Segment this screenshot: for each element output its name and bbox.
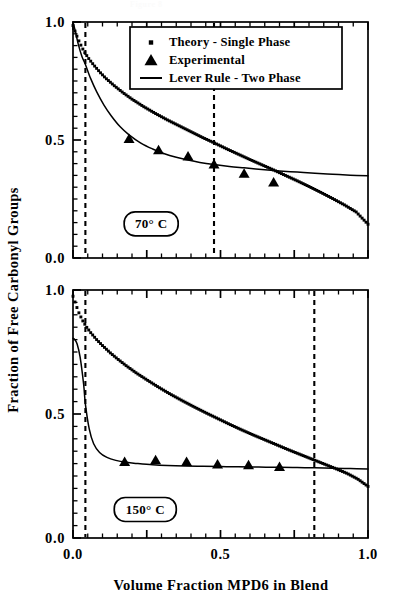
theory-marker <box>367 223 370 226</box>
experimental-marker <box>268 177 279 187</box>
experimental-marker <box>239 168 250 178</box>
x-axis-title: Volume Fraction MPD6 in Blend <box>114 577 329 593</box>
panel-bottom: 1.00.50.00.00.51.0150° C <box>45 282 378 562</box>
x-tick-label: 0.0 <box>63 546 83 562</box>
experimental-marker <box>181 456 192 466</box>
theory-marker <box>87 57 90 60</box>
panel-label-text: 70° C <box>135 216 167 231</box>
theory-marker <box>74 301 77 304</box>
y-tick-label: 0.5 <box>45 132 65 148</box>
x-tick-label: 0.5 <box>211 546 231 562</box>
theory-marker <box>81 48 84 51</box>
theory-marker <box>89 60 92 63</box>
experimental-marker <box>243 460 254 470</box>
theory-marker <box>79 316 82 319</box>
y-tick-label: 0.0 <box>45 530 65 546</box>
clipped-caption: Figure 8 <box>130 0 270 9</box>
theory-marker <box>79 44 82 47</box>
x-axis-title-text: Volume Fraction MPD6 in Blend <box>114 577 329 593</box>
theory-marker <box>74 30 77 33</box>
theory-marker <box>83 323 86 326</box>
theory-marker <box>85 54 88 57</box>
legend-marker-theory-icon <box>149 40 153 44</box>
theory-marker <box>87 329 90 332</box>
experimental-marker <box>183 151 194 161</box>
legend-label: Experimental <box>169 53 245 67</box>
theory-marker <box>85 326 88 329</box>
theory-marker <box>77 311 80 314</box>
two-panel-plot: Fraction of Free Carbonyl Groups Volume … <box>0 0 394 597</box>
y-axis-title: Fraction of Free Carbonyl Groups <box>5 187 21 413</box>
theory-marker <box>75 306 78 309</box>
experimental-marker <box>212 459 223 469</box>
theory-marker <box>75 35 78 38</box>
y-tick-label: 1.0 <box>45 282 65 298</box>
legend: Theory - Single PhaseExperimentalLever R… <box>130 27 342 89</box>
y-tick-label: 1.0 <box>45 14 65 30</box>
legend-label: Lever Rule - Two Phase <box>169 71 301 85</box>
theory-marker <box>367 485 370 488</box>
theory-marker <box>77 39 80 42</box>
theory-marker <box>81 319 84 322</box>
theory-marker <box>72 295 75 298</box>
y-tick-label: 0.0 <box>45 250 65 266</box>
y-axis-title-text: Fraction of Free Carbonyl Groups <box>5 187 21 413</box>
figure-container: Figure 8 Fraction of Free Carbonyl Group… <box>0 0 394 597</box>
experimental-marker <box>274 461 285 471</box>
theory-marker <box>72 24 75 27</box>
x-tick-label: 1.0 <box>358 546 378 562</box>
experimental-marker <box>150 455 161 465</box>
theory-marker <box>83 51 86 54</box>
legend-label: Theory - Single Phase <box>169 35 291 49</box>
y-tick-label: 0.5 <box>45 406 65 422</box>
panel-label-text: 150° C <box>126 502 165 517</box>
